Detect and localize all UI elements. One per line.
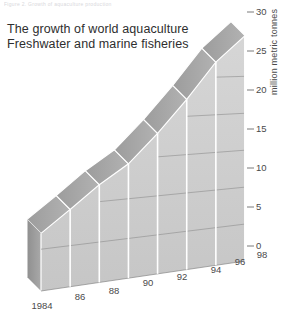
x-axis-tick-label: 88 <box>100 285 128 296</box>
x-axis-tick-label: 92 <box>168 271 196 282</box>
y-axis-title: million metric tonnes <box>269 0 279 95</box>
x-axis-tick-label: 90 <box>134 277 162 288</box>
x-axis-tick-label: 1984 <box>28 300 56 311</box>
area-body-3d <box>27 22 245 291</box>
y-axis-tick-label: 10 <box>256 162 267 173</box>
y-axis-tick-label: 20 <box>256 84 267 95</box>
x-axis-tick-label: 98 <box>248 249 276 260</box>
y-axis-tick-label: 25 <box>256 45 267 56</box>
x-axis-tick-label: 86 <box>66 291 94 302</box>
axis-tick-marks <box>247 12 254 246</box>
chart-figure: Figure 2. Growth of aquaculture producti… <box>0 0 298 325</box>
y-axis-tick-label: 30 <box>256 6 267 17</box>
y-axis-tick-label: 5 <box>256 201 261 212</box>
area-front-face <box>41 36 245 291</box>
y-axis-tick-label: 15 <box>256 123 267 134</box>
